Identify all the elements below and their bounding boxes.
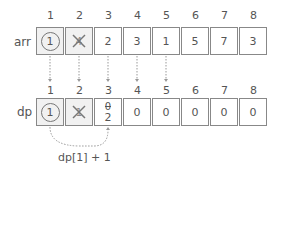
cell-value: 1 (47, 107, 54, 118)
dp-cell-3: 0 2 (94, 98, 122, 126)
dp-cell-4: 0 (123, 98, 151, 126)
annotation-label: dp[1] + 1 (58, 151, 111, 164)
index-label: 1 (36, 84, 65, 97)
index-label: 3 (94, 84, 123, 97)
index-label: 6 (181, 84, 210, 97)
dp-cell-2: 1 (65, 98, 93, 126)
index-label: 4 (123, 84, 152, 97)
index-label: 8 (239, 84, 268, 97)
cell-value: 0 (250, 107, 257, 118)
index-label: 2 (65, 84, 94, 97)
cross-mark-icon (71, 104, 87, 120)
cell-value: 0 (134, 107, 141, 118)
index-label: 7 (210, 84, 239, 97)
old-value: 0 (105, 101, 111, 112)
strike-line (105, 106, 111, 107)
dp-cell-1: 1 (36, 98, 64, 126)
circle-marker-icon: 1 (41, 103, 60, 122)
dp-cell-6: 0 (181, 98, 209, 126)
index-label: 5 (152, 84, 181, 97)
cell-value: 0 (192, 107, 199, 118)
cell-value: 0 (163, 107, 170, 118)
dp-cell-8: 0 (239, 98, 267, 126)
new-value: 2 (105, 112, 112, 123)
dp-cell-7: 0 (210, 98, 238, 126)
dp-cell-5: 0 (152, 98, 180, 126)
dp-label: dp (17, 105, 32, 119)
cell-value: 0 (221, 107, 228, 118)
